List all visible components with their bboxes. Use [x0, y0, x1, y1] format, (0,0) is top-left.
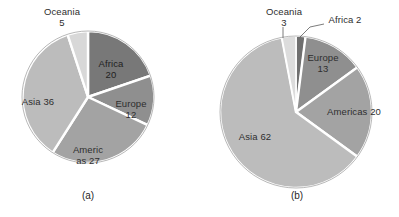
- label-a-americas: Americ as 27: [64, 144, 112, 166]
- label-a-asia: Asia 36: [12, 96, 64, 107]
- label-b-asia: Asia 62: [229, 131, 281, 142]
- caption-a: (a): [68, 190, 108, 201]
- label-b-europe: Europe 13: [299, 52, 347, 74]
- label-a-africa: Africa 20: [86, 58, 136, 80]
- caption-b: (b): [277, 190, 317, 201]
- label-a-oceania: Oceania 5: [34, 6, 90, 28]
- figure-two-pie-charts: Oceania 5 Africa 20 Europe 12 Americ as …: [0, 0, 399, 217]
- label-b-oceania: Oceania 3: [256, 6, 312, 28]
- label-a-europe: Europe 12: [107, 98, 155, 120]
- label-b-africa: Africa 2: [318, 14, 372, 25]
- label-b-americas: Americas 20: [318, 106, 390, 117]
